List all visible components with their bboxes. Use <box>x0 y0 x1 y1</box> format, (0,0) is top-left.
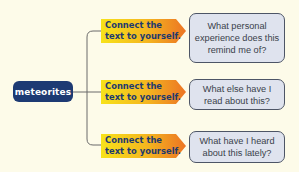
question-box-1: What personal experience does this remin… <box>189 13 285 63</box>
topic-node: meteorites <box>13 81 73 102</box>
prompt-arrow-2: Connect the text to yourself. <box>101 80 186 104</box>
question-box-3: What have I heard about this lately? <box>189 131 285 163</box>
diagram-canvas: meteorites Connect the text to yourself.… <box>0 0 299 172</box>
topic-label: meteorites <box>15 87 71 97</box>
prompt-label: Connect the text to yourself. <box>105 135 181 157</box>
prompt-arrow-3: Connect the text to yourself. <box>101 134 186 158</box>
question-box-2: What else have I read about this? <box>189 79 285 110</box>
prompt-label: Connect the text to yourself. <box>105 81 181 103</box>
prompt-arrow-1: Connect the text to yourself. <box>101 19 186 43</box>
prompt-label: Connect the text to yourself. <box>105 20 181 42</box>
question-text: What personal experience does this remin… <box>194 20 280 56</box>
question-text: What else have I read about this? <box>194 83 280 107</box>
question-text: What have I heard about this lately? <box>194 135 280 159</box>
